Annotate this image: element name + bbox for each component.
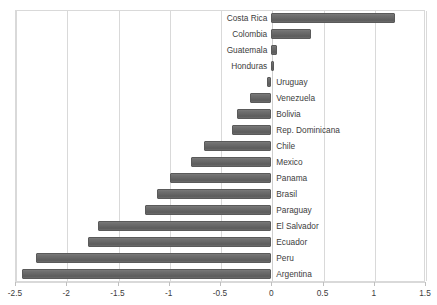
bars-layer: Costa RicaColombiaGuatemalaHondurasUrugu… [15, 10, 425, 282]
bar-row: Argentina [15, 266, 425, 282]
category-label-argentina: Argentina [276, 266, 312, 282]
x-tick-label: -1.5 [110, 288, 124, 298]
x-tick-mark [169, 282, 170, 286]
bar-row: Bolivia [15, 106, 425, 122]
x-tick-mark [220, 282, 221, 286]
x-tick-label: 0.5 [317, 288, 329, 298]
category-label-uruguay: Uruguay [276, 74, 307, 90]
horizontal-bar-chart: Costa RicaColombiaGuatemalaHondurasUrugu… [0, 0, 437, 305]
bar-row: Venezuela [15, 90, 425, 106]
bar-honduras[interactable] [271, 61, 274, 70]
bar-row: Uruguay [15, 74, 425, 90]
bar-costa-rica[interactable] [271, 13, 395, 22]
category-label-brasil: Brasil [276, 186, 297, 202]
category-label-costa-rica: Costa Rica [227, 10, 268, 26]
category-label-mexico: Mexico [276, 154, 302, 170]
gridline-1.5 [426, 11, 427, 281]
x-tick-mark [425, 282, 426, 286]
category-label-honduras: Honduras [231, 58, 267, 74]
bar-el-salvador[interactable] [98, 221, 271, 230]
x-tick-label: 1 [371, 288, 376, 298]
bar-row: Costa Rica [15, 10, 425, 26]
bar-bolivia[interactable] [237, 109, 271, 118]
category-label-paraguay: Paraguay [276, 202, 312, 218]
bar-row: Mexico [15, 154, 425, 170]
x-tick-mark [323, 282, 324, 286]
x-tick-mark [271, 282, 272, 286]
bar-chile[interactable] [204, 141, 272, 150]
x-tick-mark [374, 282, 375, 286]
bar-row: Colombia [15, 26, 425, 42]
bar-row: Brasil [15, 186, 425, 202]
bar-rep-dominicana[interactable] [232, 125, 271, 134]
x-tick-label: 1.5 [419, 288, 431, 298]
bar-ecuador[interactable] [88, 237, 271, 246]
x-tick-label: -0.5 [213, 288, 227, 298]
bar-venezuela[interactable] [250, 93, 272, 102]
x-tick-label: 0 [269, 288, 274, 298]
bar-row: Panama [15, 170, 425, 186]
bar-row: Rep. Dominicana [15, 122, 425, 138]
bar-row: Chile [15, 138, 425, 154]
x-tick-mark [66, 282, 67, 286]
x-tick-label: -2.5 [8, 288, 22, 298]
category-label-guatemala: Guatemala [227, 42, 268, 58]
bar-guatemala[interactable] [271, 45, 277, 54]
bar-row: Ecuador [15, 234, 425, 250]
bar-row: Guatemala [15, 42, 425, 58]
bar-row: Honduras [15, 58, 425, 74]
x-tick-mark [15, 282, 16, 286]
category-label-venezuela: Venezuela [276, 90, 315, 106]
x-tick-label: -1 [165, 288, 172, 298]
bar-row: Paraguay [15, 202, 425, 218]
bar-colombia[interactable] [271, 29, 311, 38]
category-label-bolivia: Bolivia [276, 106, 300, 122]
category-label-peru: Peru [276, 250, 294, 266]
category-label-ecuador: Ecuador [276, 234, 307, 250]
category-label-panama: Panama [276, 170, 307, 186]
bar-argentina[interactable] [22, 269, 271, 278]
category-label-rep-dominicana: Rep. Dominicana [276, 122, 340, 138]
bar-row: El Salvador [15, 218, 425, 234]
bar-panama[interactable] [170, 173, 271, 182]
category-label-colombia: Colombia [232, 26, 267, 42]
bar-paraguay[interactable] [145, 205, 271, 214]
x-tick-mark [118, 282, 119, 286]
bar-mexico[interactable] [191, 157, 271, 166]
bar-peru[interactable] [36, 253, 272, 262]
bar-row: Peru [15, 250, 425, 266]
category-label-el-salvador: El Salvador [276, 218, 318, 234]
bar-uruguay[interactable] [267, 77, 271, 86]
x-axis: -2.5-2-1.5-1-0.500.511.5 [15, 282, 425, 305]
x-tick-label: -2 [63, 288, 70, 298]
bar-brasil[interactable] [157, 189, 271, 198]
category-label-chile: Chile [276, 138, 295, 154]
